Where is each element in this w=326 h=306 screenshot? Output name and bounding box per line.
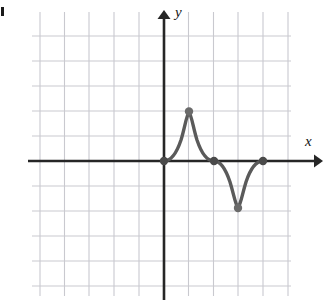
- x-axis-label: x: [305, 134, 312, 149]
- figure-container: y x: [0, 0, 326, 306]
- grid-lines: [32, 12, 291, 296]
- point-root-origin: [160, 157, 168, 165]
- point-root-right: [259, 157, 267, 165]
- point-root-middle: [210, 157, 218, 165]
- point-local-maximum: [185, 107, 193, 115]
- y-axis: [158, 10, 171, 300]
- coordinate-plane-plot: [0, 0, 326, 306]
- y-axis-label: y: [175, 5, 182, 20]
- y-axis-arrowhead: [158, 10, 171, 19]
- x-axis: [28, 155, 323, 168]
- point-local-minimum: [234, 204, 242, 212]
- x-axis-arrowhead: [314, 155, 323, 168]
